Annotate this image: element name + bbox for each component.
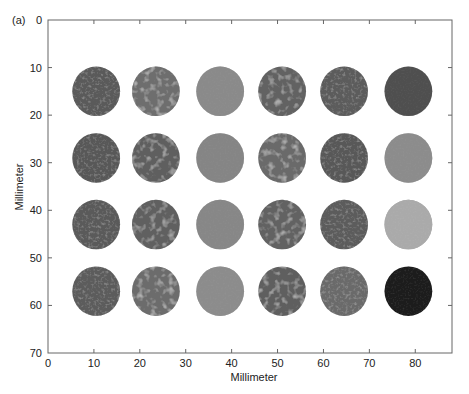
x-axis-label: Millimeter xyxy=(230,371,277,383)
x-tick-label: 70 xyxy=(363,357,375,369)
chart: 01020304050607080 010203040506070 (a) Mi… xyxy=(0,0,469,394)
sample-circles xyxy=(72,67,432,316)
sample-circle xyxy=(132,133,180,182)
y-tick-label: 40 xyxy=(30,204,42,216)
panel-label: (a) xyxy=(12,14,25,26)
sample-circle xyxy=(320,200,368,249)
y-tick-label: 0 xyxy=(36,14,42,26)
sample-circle xyxy=(196,67,244,116)
y-tick-label: 50 xyxy=(30,252,42,264)
y-axis-label: Millimeter xyxy=(13,163,25,210)
sample-circle xyxy=(320,67,368,116)
y-tick-label: 30 xyxy=(30,157,42,169)
x-tick-label: 50 xyxy=(271,357,283,369)
x-tick-label: 20 xyxy=(134,357,146,369)
x-tick-label: 0 xyxy=(45,357,51,369)
sample-circle xyxy=(320,133,368,182)
sample-circle xyxy=(385,266,433,315)
sample-circle xyxy=(385,133,433,182)
sample-circle xyxy=(72,133,120,182)
x-tick-label: 60 xyxy=(317,357,329,369)
sample-circle xyxy=(72,67,120,116)
sample-circle xyxy=(196,266,244,315)
sample-circle xyxy=(196,200,244,249)
y-tick-label: 60 xyxy=(30,299,42,311)
sample-circle xyxy=(258,200,306,249)
y-tick-label: 20 xyxy=(30,109,42,121)
sample-circle xyxy=(258,67,306,116)
y-tick-label: 70 xyxy=(30,347,42,359)
x-tick-label: 30 xyxy=(180,357,192,369)
sample-circle xyxy=(258,133,306,182)
sample-circle xyxy=(132,67,180,116)
sample-circle xyxy=(72,200,120,249)
sample-circle xyxy=(385,200,433,249)
x-tick-label: 10 xyxy=(88,357,100,369)
sample-circle xyxy=(132,200,180,249)
sample-circle xyxy=(385,67,433,116)
sample-circle xyxy=(258,266,306,315)
y-tick-label: 10 xyxy=(30,62,42,74)
sample-circle xyxy=(132,266,180,315)
x-tick-label: 40 xyxy=(226,357,238,369)
sample-circle xyxy=(72,266,120,315)
sample-circle xyxy=(196,133,244,182)
x-tick-label: 80 xyxy=(409,357,421,369)
sample-circle xyxy=(320,266,368,315)
